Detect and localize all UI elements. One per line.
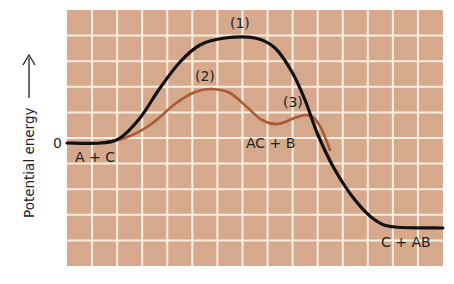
zero-label: 0 — [53, 135, 62, 151]
energy-diagram: Potential energy 0 (1) (2) (3) A + C AC … — [0, 0, 454, 284]
y-axis-arrow — [23, 55, 35, 98]
reactants-label: A + C — [75, 149, 115, 165]
products-label: C + AB — [381, 234, 431, 250]
y-axis-label: Potential energy — [21, 108, 37, 218]
peak-1-label: (1) — [230, 15, 250, 31]
intermediate-label: AC + B — [246, 135, 295, 151]
peak-2-label: (2) — [195, 68, 215, 84]
peak-3-label: (3) — [283, 94, 303, 110]
